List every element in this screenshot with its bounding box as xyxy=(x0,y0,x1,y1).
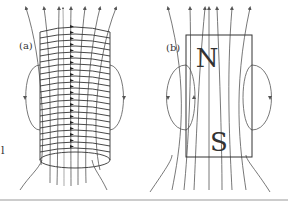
panel-b-bar-magnet xyxy=(150,8,272,192)
panel-b-label: (b) xyxy=(166,42,180,53)
side-mark: l xyxy=(1,144,5,157)
right-return-loop-b xyxy=(243,65,272,130)
panel-a-label: (a) xyxy=(19,40,33,51)
solenoid-field-lines xyxy=(20,8,116,190)
magnetic-field-figure: (a) l (b) N S xyxy=(0,0,288,204)
left-return-loop xyxy=(26,65,40,130)
right-return-loop xyxy=(110,65,124,130)
south-pole-label: S xyxy=(210,127,228,157)
current-arrows xyxy=(70,25,74,148)
panel-a-solenoid xyxy=(20,8,124,190)
north-pole-label: N xyxy=(196,43,219,73)
